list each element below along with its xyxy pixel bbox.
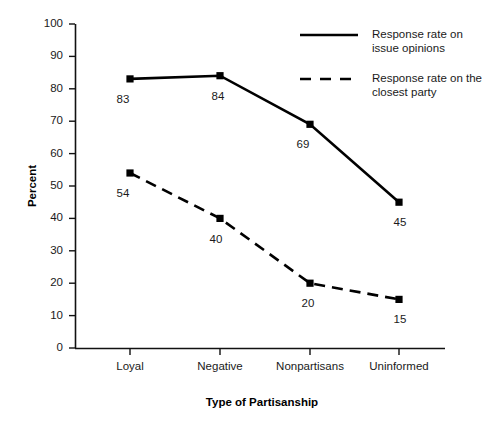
point-label-issue-nonpartisans: 69 [297,139,310,151]
chart-canvas [0,0,491,421]
y-tick-label: 30 [29,245,63,257]
y-tick-label: 80 [29,83,63,95]
point-label-issue-loyal: 83 [117,94,130,106]
y-tick-label: 20 [29,277,63,289]
legend-label-closest-party: Response rate on the closest party [372,72,482,99]
x-tick-label-nonpartisans: Nonpartisans [276,361,344,373]
series-line-issue-opinions [130,76,399,203]
series-markers-closest-party [126,169,402,303]
y-tick-label: 10 [29,310,63,322]
line-chart: 100 90 80 70 60 50 40 30 20 10 0 Percent… [0,0,491,421]
legend-label-issue-opinions: Response rate on issue opinions [372,28,463,55]
y-tick-label: 100 [29,18,63,30]
point-label-issue-uninformed: 45 [394,217,407,229]
x-tick-label-negative: Negative [197,361,242,373]
point-label-party-uninformed: 15 [394,314,407,326]
y-tick-label: 70 [29,115,63,127]
y-axis-ticks [69,24,75,348]
point-label-issue-negative: 84 [212,91,225,103]
y-tick-label: 90 [29,50,63,62]
x-tick-label-uninformed: Uninformed [369,361,428,373]
point-label-party-nonpartisans: 20 [302,298,315,310]
series-line-closest-party [130,173,399,299]
x-axis-title: Type of Partisanship [206,396,318,408]
point-label-party-negative: 40 [210,234,223,246]
y-tick-label: 0 [29,342,63,354]
y-axis-title: Percent [26,150,38,222]
series-markers-issue-opinions [126,72,402,206]
x-tick-label-loyal: Loyal [116,361,144,373]
point-label-party-loyal: 54 [117,188,130,200]
